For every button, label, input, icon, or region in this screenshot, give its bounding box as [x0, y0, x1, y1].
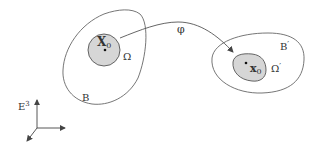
current-region-label: Ω′ — [271, 61, 281, 74]
current-point-dot — [245, 62, 248, 65]
reference-region-label: Ω — [123, 51, 131, 62]
diagram-canvas: X0 Ω B φ x0 Ω′ B′ E3 — [0, 0, 318, 152]
current-body-label: B′ — [280, 39, 289, 52]
mapping-phi-label: φ — [177, 23, 185, 36]
frame-label: E3 — [18, 100, 30, 112]
frame-axes — [27, 100, 65, 141]
reference-body-label: B — [82, 92, 89, 103]
